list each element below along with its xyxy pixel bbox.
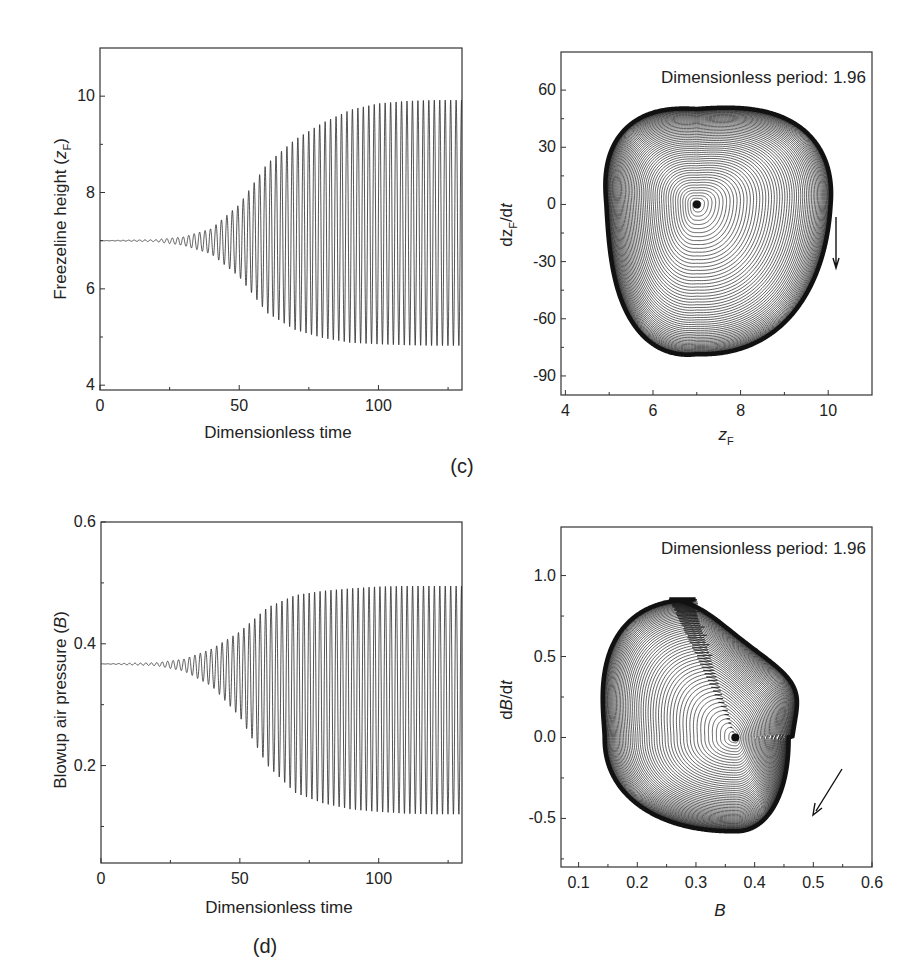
y-tick-label: 1.0 xyxy=(534,567,556,584)
x-tick-label: 100 xyxy=(365,397,392,414)
plot-area xyxy=(605,108,839,355)
period-annotation: Dimensionless period: 1.96 xyxy=(661,539,866,558)
panel-label-d: (d) xyxy=(253,935,277,957)
y-tick-label: 8 xyxy=(86,184,95,201)
x-tick-label: 50 xyxy=(231,870,249,887)
y-tick-label: 0.0 xyxy=(534,728,556,745)
plot-frame xyxy=(101,522,462,863)
y-tick-label: 0.2 xyxy=(74,757,96,774)
x-axis-label: Dimensionless time xyxy=(204,423,351,442)
fixed-point-marker xyxy=(693,200,701,208)
fixed-point-marker xyxy=(731,733,739,741)
x-tick-label: 10 xyxy=(819,402,837,419)
panel-label-c: (c) xyxy=(450,455,473,477)
direction-arrow-icon xyxy=(833,217,839,268)
y-tick-label: -90 xyxy=(533,367,556,384)
y-axis-label: dzF/dt xyxy=(497,202,519,247)
figure-canvas: 05010046810 Dimensionless time Freezelin… xyxy=(0,0,924,980)
x-tick-label: 6 xyxy=(649,402,658,419)
y-tick-label: 0.6 xyxy=(74,513,96,530)
phase-trajectory xyxy=(605,108,831,355)
x-tick-label: 50 xyxy=(230,397,248,414)
y-axis-label: Blowup air pressure (B) xyxy=(51,611,70,789)
x-tick-label: 0 xyxy=(97,870,106,887)
x-axis-label: B xyxy=(714,901,725,920)
y-tick-label: -0.5 xyxy=(528,809,556,826)
y-tick-label: 30 xyxy=(538,138,556,155)
x-tick-label: 0.6 xyxy=(861,874,883,891)
plot-frame xyxy=(100,48,462,390)
plot-area xyxy=(101,586,470,814)
y-tick-label: 10 xyxy=(77,87,95,104)
plot-area xyxy=(100,100,470,346)
x-tick-label: 4 xyxy=(561,402,570,419)
y-axis-label: dB/dt xyxy=(497,679,516,720)
chart-c-right: 4681060300-30-60-90 Dimensionless period… xyxy=(497,52,872,447)
plot-area xyxy=(603,599,842,831)
x-tick-label: 100 xyxy=(365,870,392,887)
x-tick-label: 0.2 xyxy=(626,874,648,891)
chart-d-left: 0501000.20.40.6 Dimensionless time Blowu… xyxy=(51,513,470,917)
time-series-line xyxy=(101,586,470,814)
direction-arrow-icon xyxy=(813,769,842,815)
y-tick-label: 0.4 xyxy=(74,635,96,652)
x-tick-label: 8 xyxy=(736,402,745,419)
y-tick-label: 4 xyxy=(86,376,95,393)
y-tick-label: 6 xyxy=(86,280,95,297)
y-tick-label: 0.5 xyxy=(534,648,556,665)
period-annotation: Dimensionless period: 1.96 xyxy=(661,68,866,87)
y-axis-label: Freezeline height (zF) xyxy=(51,138,73,300)
x-axis-label: zF xyxy=(717,425,734,447)
y-tick-label: 0 xyxy=(547,195,556,212)
chart-d-right: 0.10.20.30.40.50.61.00.50.0-0.5 Dimensio… xyxy=(497,527,883,920)
time-series-line xyxy=(100,100,470,346)
x-tick-label: 0.5 xyxy=(802,874,824,891)
x-axis-label: Dimensionless time xyxy=(205,898,352,917)
x-tick-label: 0.1 xyxy=(567,874,589,891)
chart-c-left: 05010046810 Dimensionless time Freezelin… xyxy=(51,48,470,442)
x-tick-label: 0 xyxy=(96,397,105,414)
y-tick-label: -30 xyxy=(533,253,556,270)
y-tick-label: -60 xyxy=(533,310,556,327)
x-tick-label: 0.4 xyxy=(744,874,766,891)
y-tick-label: 60 xyxy=(538,81,556,98)
x-tick-label: 0.3 xyxy=(685,874,707,891)
